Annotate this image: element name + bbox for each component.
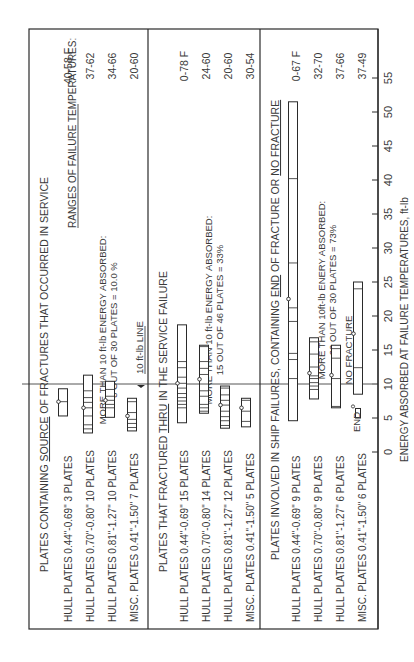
- x-axis-title: ENERGY ABSORBED AT FAILURE TEMPERATURES,…: [399, 197, 410, 462]
- section-1: PLATES CONTAINING SOURCE OF FRACTURES TH…: [38, 38, 140, 622]
- axis-tick-label: 5: [382, 415, 394, 421]
- ten-ftlb-line-label: 10 ft-lb LINE: [134, 321, 145, 374]
- axis-tick-label: 0: [382, 449, 394, 455]
- row-label: HULL PLATES 0.81"-1.27" 10 PLATES: [107, 450, 118, 622]
- average-marker: [57, 400, 61, 404]
- temp-range: 0-67 F: [290, 51, 302, 81]
- row-label: HULL PLATES 0.44"-0.69" 15 PLATES: [179, 450, 190, 622]
- temp-range: 0-78 F: [178, 51, 190, 81]
- axis-tick-label: 55: [382, 72, 394, 84]
- axis-tick-label: 35: [382, 208, 394, 220]
- average-marker: [330, 373, 334, 377]
- arrow-icon: [137, 385, 145, 388]
- average-marker: [176, 382, 180, 386]
- section-3: PLATES INVOLVED IN SHIP FAILURES, CONTAI…: [269, 51, 368, 622]
- average-marker: [126, 414, 130, 418]
- temp-range: 37-66: [334, 52, 346, 79]
- axis-tick-label: 45: [382, 140, 394, 152]
- data-row: HULL PLATES 0.70"-0.80" 10 PLATES37-62: [82, 52, 96, 622]
- axis-tick-label: 15: [382, 344, 394, 356]
- range-bar: [221, 386, 230, 428]
- section-title: PLATES THAT FRACTURED THRU IN THE SERVIC…: [157, 271, 169, 572]
- average-marker: [104, 399, 108, 403]
- temp-range: 24-60: [200, 52, 212, 79]
- axis-tick-label: 30: [382, 242, 394, 254]
- average-marker: [198, 377, 202, 381]
- axis-tick-label: 40: [382, 174, 394, 186]
- average-marker: [308, 371, 312, 375]
- temp-range: 20-60: [128, 52, 140, 79]
- average-marker: [240, 406, 244, 410]
- temp-range: 37-62: [84, 52, 96, 79]
- average-marker: [352, 332, 356, 336]
- temp-range: 37-49: [356, 52, 368, 79]
- row-label: HULL PLATES 0.44"-0.69" 9 PLATES: [291, 455, 302, 622]
- row-label: HULL PLATES 0.70"-0.80" 9 PLATES: [313, 455, 324, 622]
- axis-tick-label: 20: [382, 310, 394, 322]
- range-bar: [242, 398, 251, 427]
- x-axis: 0510152025303540455055ENERGY ABSORBED AT…: [372, 29, 410, 629]
- end-marker: [351, 405, 354, 408]
- range-bar: [354, 282, 363, 394]
- row-label: HULL PLATES 0.70"-0.80" 14 PLATES: [201, 450, 212, 622]
- row-label: MISC. PLATES 0.41"-1.50" 5 PLATES: [245, 453, 256, 622]
- axis-tick-label: 25: [382, 276, 394, 288]
- row-label: HULL PLATES 0.81"-1.27" 6 PLATES: [335, 455, 346, 622]
- no-fracture-label: NO FRACTURE: [343, 316, 354, 385]
- range-bar: [289, 102, 298, 421]
- data-row: MISC. PLATES 0.41"-1.50" 6 PLATES37-49EN…: [351, 52, 368, 622]
- temp-range: 34-66: [106, 52, 118, 79]
- row-label: MISC. PLATES 0.41"-1.50" 7 PLATES: [129, 453, 140, 622]
- temp-range: 40-58 F: [62, 48, 74, 84]
- range-bar: [84, 375, 93, 433]
- sections: PLATES CONTAINING SOURCE OF FRACTURES TH…: [38, 38, 368, 622]
- average-marker: [219, 403, 223, 407]
- energy-note: 3 OUT OF 30 PLATES = 10.0 %: [108, 262, 119, 398]
- row-label: HULL PLATES 0.70"-0.80" 10 PLATES: [85, 450, 96, 622]
- average-marker: [82, 406, 86, 410]
- data-row: MISC. PLATES 0.41"-1.50" 5 PLATES30-54: [240, 52, 256, 622]
- row-label: MISC. PLATES 0.41"-1.50" 6 PLATES: [357, 453, 368, 622]
- energy-absorbed-chart: 10 ft-lb LINE 0510152025303540455055ENER…: [0, 0, 414, 662]
- axis-tick-label: 10: [382, 378, 394, 390]
- energy-note: 22 OUT OF 30 PLATES = 73%: [327, 224, 338, 355]
- section-title: PLATES CONTAINING SOURCE OF FRACTURES TH…: [38, 177, 50, 572]
- data-row: HULL PLATES 0.44"-0.69" 15 PLATES0-78 F: [176, 51, 190, 622]
- temp-range: 30-54: [244, 52, 256, 79]
- section-2: PLATES THAT FRACTURED THRU IN THE SERVIC…: [157, 51, 256, 622]
- row-label: HULL PLATES 0.44"-0.69" 3 PLATES: [63, 455, 74, 622]
- data-row: HULL PLATES 0.44"-0.69" 9 PLATES0-67 F: [287, 51, 302, 622]
- temp-range: 20-60: [222, 52, 234, 79]
- axis-tick-label: 50: [382, 106, 394, 118]
- section-title: PLATES INVOLVED IN SHIP FAILURES, CONTAI…: [269, 100, 281, 560]
- end-label: END: [351, 412, 362, 432]
- temp-range: 32-70: [312, 52, 324, 79]
- row-label: HULL PLATES 0.81"-1.27" 12 PLATES: [223, 450, 234, 622]
- average-marker: [287, 297, 291, 301]
- energy-note: 15 OUT OF 46 PLATES = 33%: [214, 244, 225, 375]
